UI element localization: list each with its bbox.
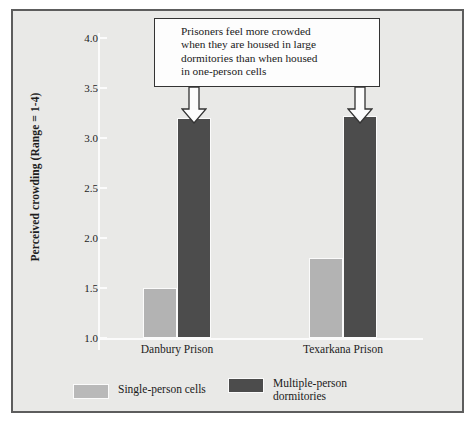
- callout-box: Prisoners feel more crowded when they ar…: [154, 18, 380, 87]
- legend-item-single-person-cells: Single-person cells: [73, 383, 206, 399]
- y-axis-label: Perceived crowding (Range = 1-4): [29, 72, 41, 282]
- y-tick-mark: [98, 87, 107, 89]
- y-tick-label: 2.0: [60, 232, 98, 244]
- chart-frame: Perceived crowding (Range = 1-4) 4.0 3.5…: [11, 9, 464, 413]
- y-tick-label: 4.0: [60, 32, 98, 44]
- y-tick-mark: [98, 137, 107, 139]
- chart-figure: Perceived crowding (Range = 1-4) 4.0 3.5…: [0, 0, 474, 429]
- y-tick-label: 1.5: [60, 282, 98, 294]
- bar-texarkana-multiple-person-dormitories: [343, 116, 377, 338]
- y-tick-mark: [98, 337, 107, 339]
- y-tick-mark: [98, 37, 107, 39]
- callout-arrow-left: [181, 87, 207, 124]
- y-tick-label: 3.5: [60, 82, 98, 94]
- legend-swatch-dark-icon: [228, 378, 264, 393]
- legend-item-multiple-person-dormitories: Multiple-person dormitories: [228, 377, 347, 403]
- y-tick-mark: [98, 187, 107, 189]
- chart-legend: Single-person cells Multiple-person dorm…: [13, 377, 466, 417]
- x-axis-label-texarkana: Texarkana Prison: [303, 343, 383, 355]
- y-tick-mark: [98, 287, 107, 289]
- x-axis-line: [98, 338, 423, 340]
- y-tick-label: 1.0: [60, 332, 98, 344]
- legend-label-multiple-person-dormitories: Multiple-person dormitories: [273, 377, 347, 403]
- bar-texarkana-single-person-cells: [309, 258, 343, 338]
- x-axis-label-danbury: Danbury Prison: [141, 343, 214, 355]
- callout-arrow-right: [347, 87, 373, 124]
- bar-danbury-multiple-person-dormitories: [177, 118, 211, 338]
- legend-label-single-person-cells: Single-person cells: [118, 383, 206, 396]
- y-tick-label: 2.5: [60, 182, 98, 194]
- y-tick-label: 3.0: [60, 132, 98, 144]
- y-tick-mark: [98, 237, 107, 239]
- y-axis-line: [98, 33, 100, 350]
- legend-swatch-light-icon: [73, 384, 109, 399]
- callout-text: Prisoners feel more crowded when they ar…: [181, 25, 371, 79]
- bar-danbury-single-person-cells: [143, 288, 177, 338]
